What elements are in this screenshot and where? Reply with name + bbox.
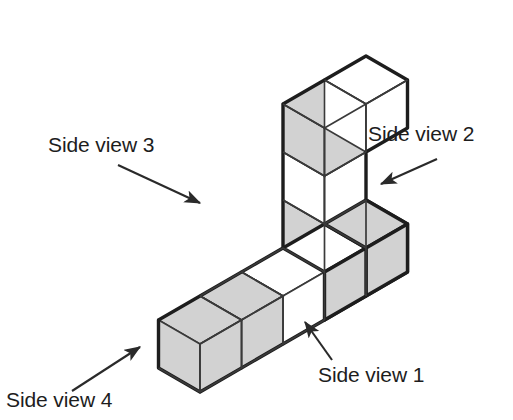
arrow-side-view-2 (381, 159, 437, 184)
label-side-view-3: Side view 3 (48, 133, 154, 157)
isometric-cube-figure (0, 0, 513, 420)
arrow-side-view-3 (118, 165, 200, 203)
arrow-side-view-4 (72, 347, 140, 391)
label-side-view-1: Side view 1 (318, 363, 424, 387)
label-side-view-4: Side view 4 (6, 388, 112, 412)
arrow-side-view-1 (305, 322, 332, 360)
label-side-view-2: Side view 2 (368, 122, 474, 146)
figure-canvas: Side view 3 Side view 2 Side view 1 Side… (0, 0, 513, 420)
